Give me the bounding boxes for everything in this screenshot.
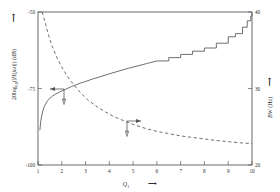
x-axis-title-subscript: 1 bbox=[127, 184, 129, 189]
x-axis-ticks bbox=[38, 161, 252, 165]
right-y-axis-ticks bbox=[248, 12, 252, 165]
right-y-axis-title-arrow: ⟶ bbox=[267, 77, 273, 86]
left-y-axis-title: 20log10(|H(jω)|) (dB) bbox=[11, 49, 19, 100]
x-tick-label: 1 bbox=[37, 168, 40, 174]
x-tick-label: 6 bbox=[156, 168, 159, 174]
left-y-axis-ticks bbox=[38, 12, 42, 165]
right-y-tick-label: 40 bbox=[255, 9, 261, 15]
left-y-axis-title-arrow: ⟶ bbox=[11, 13, 17, 22]
bandwidth-curve bbox=[42, 12, 252, 144]
left-y-tick-label: -75 bbox=[28, 86, 35, 92]
right-y-axis-tick-labels: 40 30 20 bbox=[255, 9, 261, 168]
x-axis-title-group: Q1 ⟶ bbox=[123, 181, 157, 189]
right-y-axis-title-group: BW (Hz) ⟶ bbox=[267, 77, 274, 118]
plot-frame bbox=[38, 12, 252, 165]
x-tick-label: 8 bbox=[203, 168, 206, 174]
x-axis-title-arrow: ⟶ bbox=[148, 181, 157, 187]
magnitude-response-curve bbox=[40, 13, 252, 130]
right-axis-pointer-annotation bbox=[125, 119, 141, 137]
right-y-tick-label: 20 bbox=[255, 162, 261, 168]
chart-figure: 1 2 3 4 5 6 7 8 9 10 -50 -75 -100 bbox=[0, 0, 280, 192]
x-tick-label: 2 bbox=[61, 168, 64, 174]
x-tick-label: 10 bbox=[249, 168, 255, 174]
right-y-axis-title: BW (Hz) bbox=[267, 97, 274, 118]
x-tick-label: 3 bbox=[84, 168, 87, 174]
left-y-axis-title-coeff: 20log bbox=[11, 86, 17, 100]
chart-page: 1 2 3 4 5 6 7 8 9 10 -50 -75 -100 bbox=[0, 0, 280, 192]
left-y-axis-title-group: 20log10(|H(jω)|) (dB) ⟶ bbox=[11, 13, 19, 100]
x-axis-tick-labels: 1 2 3 4 5 6 7 8 9 10 bbox=[37, 168, 255, 174]
left-y-axis-tick-labels: -50 -75 -100 bbox=[25, 9, 35, 168]
left-y-tick-label: -100 bbox=[25, 162, 35, 168]
x-tick-label: 5 bbox=[132, 168, 135, 174]
x-tick-label: 4 bbox=[108, 168, 111, 174]
left-y-tick-label: -50 bbox=[28, 9, 35, 15]
x-tick-label: 9 bbox=[227, 168, 230, 174]
x-axis-title: Q1 bbox=[123, 181, 129, 189]
x-tick-label: 7 bbox=[179, 168, 182, 174]
right-y-tick-label: 30 bbox=[255, 86, 261, 92]
